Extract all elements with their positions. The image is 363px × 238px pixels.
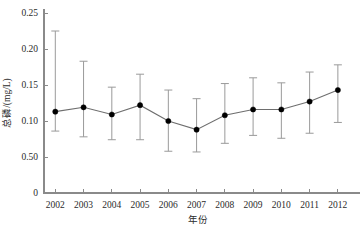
data-point-marker <box>166 118 171 123</box>
chart-container: 00.500.100.150.200.25 200220032004200520… <box>0 0 363 238</box>
axis-spines <box>44 9 360 193</box>
x-tick-label: 2012 <box>328 200 347 210</box>
y-tick-label: 0 <box>33 188 38 198</box>
data-point-marker <box>279 107 284 112</box>
axis-spine-path <box>44 9 360 193</box>
data-point-marker <box>222 113 227 118</box>
y-tick-label: 0.50 <box>21 152 38 162</box>
y-tick-label: 0.15 <box>21 80 38 90</box>
x-axis-tick-group: 2002200320042005200620072008200920102011… <box>46 189 348 210</box>
y-tick-label: 0.20 <box>21 44 38 54</box>
error-bars-group <box>51 31 342 152</box>
data-point-marker <box>53 109 58 114</box>
x-tick-label: 2011 <box>300 200 319 210</box>
data-point-marker <box>335 87 340 92</box>
x-tick-label: 2002 <box>46 200 65 210</box>
total-phosphorus-line-chart: 00.500.100.150.200.25 200220032004200520… <box>0 0 363 238</box>
x-axis-title: 年份 <box>188 214 208 225</box>
x-tick-label: 2004 <box>102 200 121 210</box>
y-axis-title: 总磷/(mg/L) <box>1 78 13 128</box>
x-tick-label: 2010 <box>272 200 291 210</box>
y-tick-label: 0.10 <box>21 116 38 126</box>
data-point-marker <box>307 99 312 104</box>
data-point-marker <box>251 107 256 112</box>
x-tick-label: 2007 <box>187 200 206 210</box>
data-point-marker <box>194 127 199 132</box>
x-tick-label: 2009 <box>244 200 263 210</box>
x-tick-label: 2005 <box>131 200 150 210</box>
x-tick-label: 2003 <box>74 200 93 210</box>
data-point-marker <box>137 103 142 108</box>
y-tick-label: 0.25 <box>21 8 38 18</box>
x-tick-label: 2008 <box>215 200 234 210</box>
data-point-marker <box>109 112 114 117</box>
x-tick-label: 2006 <box>159 200 178 210</box>
data-point-marker <box>81 105 86 110</box>
